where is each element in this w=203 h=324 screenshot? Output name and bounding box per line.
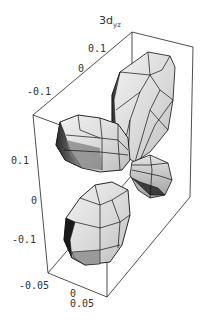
svg-text:0.1: 0.1	[88, 43, 106, 54]
svg-text:0: 0	[78, 63, 84, 74]
svg-text:-0.05: -0.05	[19, 280, 49, 291]
svg-text:0: 0	[31, 195, 37, 206]
axis-bottom-ticks: -0.05 0 0.05	[19, 280, 94, 309]
lobe-lower-left	[64, 182, 130, 265]
svg-text:-0.1: -0.1	[12, 234, 36, 245]
orbital-3d-plot: 3dyz	[0, 0, 203, 324]
lobe-lower-right	[130, 155, 172, 198]
svg-text:-0.1: -0.1	[27, 86, 51, 97]
axis-vertical-ticks: 0.1 0 -0.1	[11, 155, 37, 245]
svg-text:0.1: 0.1	[11, 155, 29, 166]
plot-title: 3dyz	[99, 14, 121, 29]
svg-text:0.05: 0.05	[70, 298, 94, 309]
axis-top-depth-ticks: 0.1 0 -0.1	[27, 43, 106, 97]
